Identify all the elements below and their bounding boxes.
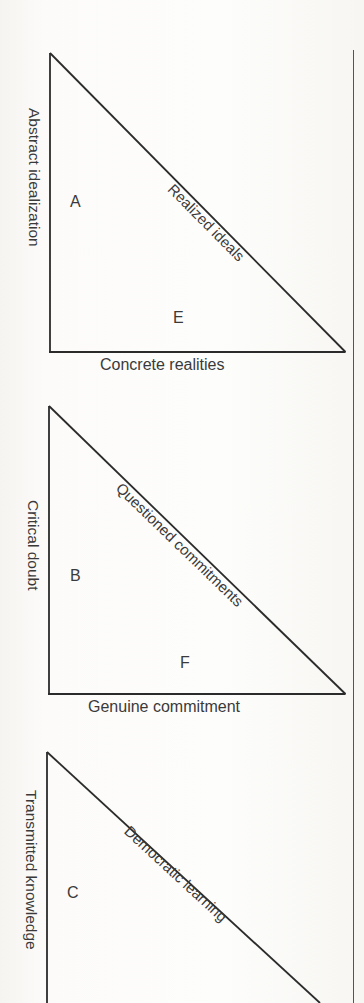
region-letter-a: A <box>70 194 81 210</box>
y-axis-label-b: Critical doubt <box>26 500 42 590</box>
diagram-critical-doubt: Critical doubt B F Questioned commitment… <box>0 390 364 730</box>
scanned-figure-page: Abstract idealization A E Realized ideal… <box>0 0 364 1003</box>
y-axis-label-c: Transmitted knowledge <box>24 790 40 950</box>
triangle-b-shape <box>0 390 364 730</box>
region-letter-c: C <box>67 885 79 901</box>
y-axis-label-a: Abstract idealization <box>27 108 43 247</box>
x-axis-label-b: Genuine commitment <box>88 699 240 715</box>
diagram-abstract-idealization: Abstract idealization A E Realized ideal… <box>0 0 364 388</box>
x-axis-label-a: Concrete realities <box>100 357 225 373</box>
region-letter-e: E <box>173 310 184 326</box>
diagram-transmitted-knowledge: Transmitted knowledge C Democratic learn… <box>0 748 364 1003</box>
region-letter-f: F <box>180 655 190 671</box>
region-letter-b: B <box>70 568 81 584</box>
